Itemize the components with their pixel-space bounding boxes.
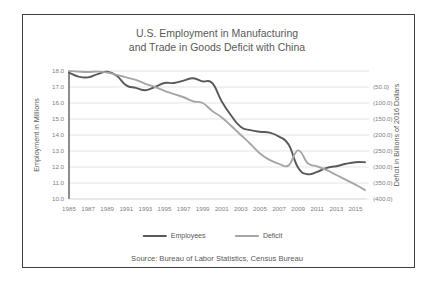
x-axis-tick-15: 2015 bbox=[349, 205, 363, 212]
y2-axis-tick-7: (350.0) bbox=[373, 179, 393, 186]
x-axis-tick-7: 1999 bbox=[196, 205, 210, 212]
y-axis-tick-3: 15.0 bbox=[52, 115, 65, 122]
y2-axis-tick-1: (50.0) bbox=[373, 83, 389, 90]
x-axis-tick-10: 2005 bbox=[253, 205, 267, 212]
y-axis-title: Employment in Millions bbox=[32, 98, 41, 172]
chart-title-line2: and Trade in Goods Deficit with China bbox=[129, 41, 305, 53]
y-axis-tick-2: 16.0 bbox=[52, 99, 65, 106]
x-axis-tick-1: 1987 bbox=[81, 205, 95, 212]
x-axis-tick-2: 1989 bbox=[100, 205, 114, 212]
x-axis-tick-13: 2011 bbox=[311, 205, 325, 212]
x-axis-tick-6: 1997 bbox=[177, 205, 191, 212]
chart-title-line1: U.S. Employment in Manufacturing bbox=[136, 27, 298, 39]
y-axis-tick-8: 10.0 bbox=[52, 195, 65, 202]
y-axis-tick-4: 14.0 bbox=[52, 131, 65, 138]
legend-label-deficit: Deficit bbox=[263, 232, 283, 239]
chart-canvas: U.S. Employment in Manufacturingand Trad… bbox=[23, 15, 413, 266]
chart-frame: U.S. Employment in Manufacturingand Trad… bbox=[22, 14, 415, 268]
x-axis-tick-3: 1991 bbox=[119, 205, 133, 212]
y-axis-tick-1: 17.0 bbox=[52, 83, 65, 90]
y2-axis-tick-8: (400.0) bbox=[373, 195, 393, 202]
y2-axis-tick-2: (100.0) bbox=[373, 99, 393, 106]
x-axis-tick-0: 1985 bbox=[62, 205, 76, 212]
x-axis-tick-8: 2001 bbox=[215, 205, 229, 212]
y2-axis-tick-6: (300.0) bbox=[373, 163, 393, 170]
y-axis-tick-6: 12.0 bbox=[52, 163, 65, 170]
series-line-deficit bbox=[69, 71, 365, 190]
y2-axis-tick-4: (200.0) bbox=[373, 131, 393, 138]
y-axis-tick-7: 11.0 bbox=[52, 179, 64, 186]
y-axis-tick-5: 13.0 bbox=[52, 147, 65, 154]
x-axis-tick-11: 2007 bbox=[272, 205, 286, 212]
x-axis-tick-4: 1993 bbox=[139, 205, 153, 212]
x-axis-tick-14: 2013 bbox=[329, 205, 343, 212]
x-axis-tick-5: 1995 bbox=[158, 205, 172, 212]
x-axis-tick-9: 2003 bbox=[234, 205, 248, 212]
y-axis-tick-0: 18.0 bbox=[52, 67, 65, 74]
figure-container: U.S. Employment in Manufacturingand Trad… bbox=[0, 0, 438, 281]
y2-axis-title: Deficit in Billions of 2016 Dollars bbox=[392, 83, 401, 186]
x-axis-tick-12: 2009 bbox=[291, 205, 305, 212]
legend-label-employees: Employees bbox=[171, 232, 206, 240]
y2-axis-tick-5: (250.0) bbox=[373, 147, 393, 154]
source-note: Source: Bureau of Labor Statistics, Cens… bbox=[131, 254, 303, 263]
y2-axis-tick-3: (150.0) bbox=[373, 115, 393, 122]
